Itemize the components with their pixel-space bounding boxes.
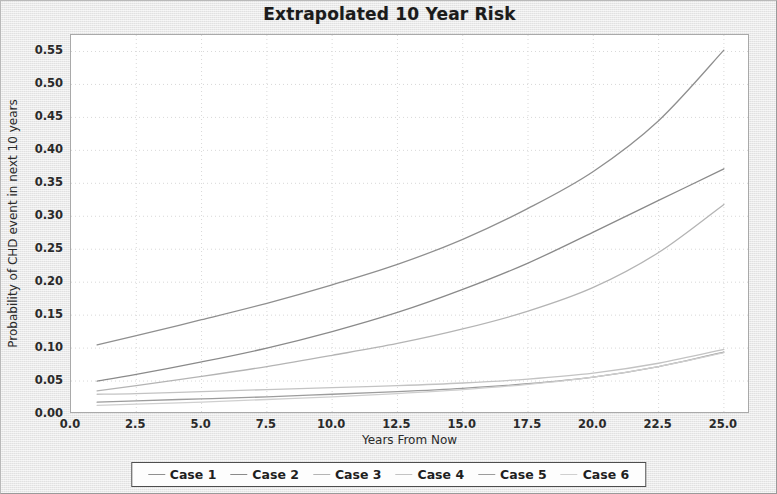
legend-line-swatch xyxy=(230,474,247,475)
y-tick-label: 0.25 xyxy=(19,241,63,255)
gridlines xyxy=(71,35,750,414)
legend-item-case-6[interactable]: Case 6 xyxy=(554,467,637,482)
plot-area xyxy=(70,34,749,413)
y-tick-label: 0.15 xyxy=(19,307,63,321)
legend-item-label: Case 3 xyxy=(335,467,382,482)
legend-item-label: Case 1 xyxy=(170,467,217,482)
chart-title: Extrapolated 10 Year Risk xyxy=(1,4,777,24)
series-line-case-6 xyxy=(97,353,724,406)
legend-item-case-5[interactable]: Case 5 xyxy=(471,467,554,482)
x-tick-label: 7.5 xyxy=(236,417,296,431)
y-tick-label: 0.45 xyxy=(19,109,63,123)
legend-item-label: Case 6 xyxy=(583,467,630,482)
plot-svg xyxy=(71,35,750,414)
legend-item-case-3[interactable]: Case 3 xyxy=(306,467,389,482)
y-tick-label: 0.30 xyxy=(19,208,63,222)
y-tick-label: 0.50 xyxy=(19,76,63,90)
y-tick-label: 0.05 xyxy=(19,373,63,387)
series-lines xyxy=(97,50,724,405)
legend-item-case-2[interactable]: Case 2 xyxy=(223,467,306,482)
x-tick-label: 10.0 xyxy=(301,417,361,431)
legend-item-label: Case 5 xyxy=(500,467,547,482)
x-tick-label: 25.0 xyxy=(693,417,753,431)
chart-panel: Extrapolated 10 Year Risk Probability of… xyxy=(0,0,777,494)
series-line-case-3 xyxy=(97,204,724,391)
legend-item-label: Case 4 xyxy=(418,467,465,482)
y-tick-label: 0.55 xyxy=(19,43,63,57)
x-tick-label: 2.5 xyxy=(105,417,165,431)
legend-item-label: Case 2 xyxy=(252,467,299,482)
x-tick-label: 17.5 xyxy=(497,417,557,431)
y-tick-label: 0.10 xyxy=(19,340,63,354)
y-tick-label: 0.35 xyxy=(19,175,63,189)
x-tick-label: 22.5 xyxy=(628,417,688,431)
x-tick-label: 20.0 xyxy=(562,417,622,431)
legend-line-swatch xyxy=(561,474,578,475)
chart-legend: Case 1Case 2Case 3Case 4Case 5Case 6 xyxy=(131,462,646,487)
y-axis-label: Probability of CHD event in next 10 year… xyxy=(3,34,23,413)
x-axis-label: Years From Now xyxy=(70,433,749,447)
x-tick-label: 15.0 xyxy=(432,417,492,431)
legend-item-case-4[interactable]: Case 4 xyxy=(389,467,472,482)
legend-item-case-1[interactable]: Case 1 xyxy=(141,467,224,482)
x-tick-label: 12.5 xyxy=(366,417,426,431)
x-tick-label: 5.0 xyxy=(171,417,231,431)
series-line-case-1 xyxy=(97,50,724,345)
series-line-case-5 xyxy=(97,352,724,402)
y-tick-label: 0.40 xyxy=(19,142,63,156)
legend-line-swatch xyxy=(396,474,413,475)
y-tick-label: 0.20 xyxy=(19,274,63,288)
legend-line-swatch xyxy=(148,474,165,475)
x-tick-label: 0.0 xyxy=(40,417,100,431)
legend-line-swatch xyxy=(478,474,495,475)
series-line-case-2 xyxy=(97,169,724,381)
legend-line-swatch xyxy=(313,474,330,475)
